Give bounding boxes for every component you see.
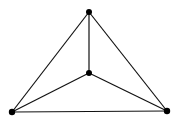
graph-diagram	[0, 0, 179, 121]
edge-center-bottom-left	[12, 73, 89, 112]
vertex-center	[86, 70, 92, 76]
edge-top-bottom-left	[12, 12, 89, 112]
edge-top-bottom-right	[89, 12, 167, 111]
edges-group	[12, 12, 167, 112]
edge-center-bottom-right	[89, 73, 167, 111]
vertex-bottom-right	[164, 108, 170, 114]
edge-bottom-left-bottom-right	[12, 111, 167, 112]
vertex-top	[86, 9, 92, 15]
vertex-bottom-left	[9, 109, 15, 115]
